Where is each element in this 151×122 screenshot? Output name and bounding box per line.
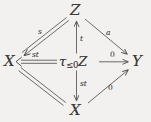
edge-x-to-x — [19, 68, 66, 106]
edge-label-st-left: st — [32, 51, 39, 59]
center-object-Z: Z — [78, 54, 87, 69]
edge-label-s: s — [38, 28, 42, 36]
vertex-bottom-X: X — [70, 103, 81, 118]
vertex-left-X: X — [4, 54, 15, 69]
edge-label-zero-right: 0 — [110, 51, 115, 59]
edge-label-zero-bottom: 0 — [108, 84, 113, 92]
vertex-right-Y: Y — [132, 54, 142, 69]
commutative-diagram: Z X Y X τ≤0Z s a t st 0 st 0 — [0, 0, 151, 122]
edge-label-t: t — [80, 35, 83, 43]
edge-label-st-bottom: st — [80, 80, 87, 88]
vertex-top-Z: Z — [70, 3, 80, 18]
vertex-center-truncation: τ≤0Z — [59, 55, 87, 69]
edge-z-to-x — [22, 18, 69, 56]
edge-label-a: a — [106, 29, 110, 37]
tau-subscript: ≤0 — [66, 60, 78, 70]
